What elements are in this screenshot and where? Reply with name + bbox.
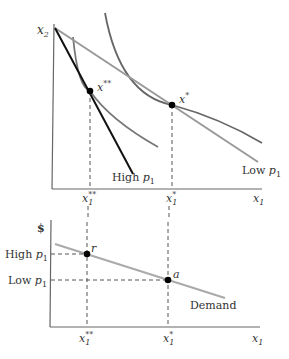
label-low-p1-price: Low p1 bbox=[8, 274, 47, 289]
bottom-panel: $ High p1 Low p1 r a Demand x1** x1* x1 bbox=[5, 220, 263, 347]
top-y-axis-label: x2 bbox=[37, 23, 49, 39]
bottom-tick-label-x1-double-star: x1** bbox=[79, 330, 93, 347]
label-high-p1: High p1 bbox=[112, 171, 155, 186]
bottom-y-axis-label: $ bbox=[37, 222, 45, 235]
point-x-star bbox=[169, 102, 176, 109]
tick-label-x1-double-star: x1** bbox=[82, 190, 96, 207]
tick-label-x1-star: x1* bbox=[166, 190, 177, 207]
budget-line-high-p1 bbox=[55, 28, 133, 174]
point-x-double-star bbox=[87, 88, 94, 95]
label-low-p1: Low p1 bbox=[242, 164, 281, 179]
bottom-x-axis-label: x1 bbox=[252, 332, 263, 347]
label-demand: Demand bbox=[190, 299, 236, 312]
label-x-double-star: x** bbox=[97, 79, 111, 94]
point-r bbox=[84, 251, 91, 258]
demand-curve bbox=[55, 244, 225, 298]
label-x-star: x* bbox=[179, 91, 189, 106]
point-a bbox=[165, 277, 172, 284]
top-panel: x2 x** x* High p1 Low p1 x1** x1* x1 bbox=[37, 13, 281, 207]
label-point-r: r bbox=[91, 242, 97, 255]
indifference-curve-high bbox=[105, 13, 262, 143]
budget-line-low-p1 bbox=[55, 28, 258, 162]
demand-derivation-diagram: x2 x** x* High p1 Low p1 x1** x1* x1 $ H… bbox=[0, 0, 289, 359]
top-y-axis bbox=[52, 24, 54, 189]
bottom-y-axis bbox=[50, 220, 51, 327]
label-high-p1-price: High p1 bbox=[5, 248, 48, 263]
bottom-tick-label-x1-star: x1* bbox=[163, 330, 174, 347]
top-x-axis-label: x1 bbox=[253, 192, 264, 207]
label-point-a: a bbox=[173, 268, 180, 281]
